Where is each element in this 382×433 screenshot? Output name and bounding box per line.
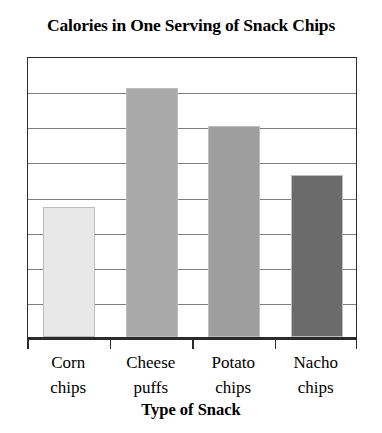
category-label: Potatochips [192,349,275,401]
x-axis-tick-labels: CornchipsCheesepuffsPotatochipsNachochip… [27,349,357,401]
category-label-line: chips [27,375,110,400]
bars-layer [28,58,356,337]
category-label: Cheesepuffs [110,349,193,401]
bar-chart-figure: Calories in One Serving of Snack Chips C… [0,0,382,433]
bar[interactable] [126,88,178,337]
bar-slot [28,58,111,337]
plot-area [27,57,357,338]
x-axis-title: Type of Snack [0,399,382,420]
axis-tick [27,338,29,349]
category-label-line: chips [275,375,358,400]
category-label: Cornchips [27,349,110,401]
axis-tick [192,338,194,349]
chart-title: Calories in One Serving of Snack Chips [0,14,382,36]
bar-slot [193,58,276,337]
bar[interactable] [208,126,260,337]
bar-slot [276,58,359,337]
axis-tick [356,338,358,349]
axis-tick [110,338,112,349]
category-label-line: Nacho [275,350,358,375]
category-label-line: Potato [192,350,275,375]
category-label-line: chips [192,375,275,400]
category-label-line: puffs [110,375,193,400]
category-label-line: Cheese [110,350,193,375]
axis-tick [275,338,277,349]
category-label-line: Corn [27,350,110,375]
bar[interactable] [43,207,95,337]
bar[interactable] [291,175,343,337]
bar-slot [111,58,194,337]
x-axis-ticks [27,338,357,349]
category-label: Nachochips [275,349,358,401]
